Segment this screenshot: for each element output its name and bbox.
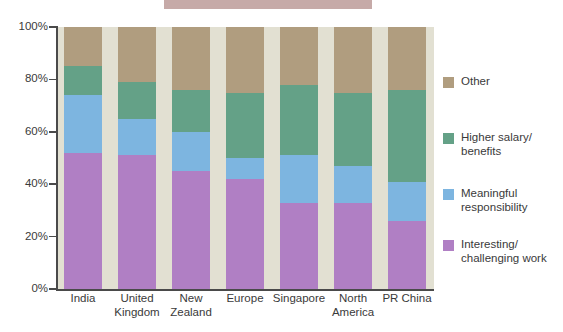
legend-swatch-icon: [443, 133, 454, 144]
bar-segment: [280, 155, 318, 202]
bar-segment: [64, 95, 102, 153]
x-axis-label-line: PR China: [371, 292, 443, 306]
y-axis-tick-label: 60%: [4, 126, 48, 138]
y-axis-tick: [49, 183, 56, 185]
bar-pr-china: [388, 27, 426, 289]
bar-europe: [226, 27, 264, 289]
bar-segment: [118, 119, 156, 156]
y-axis-tick-label-wrap: 100%: [0, 21, 48, 33]
y-axis-tick: [49, 236, 56, 238]
bar-north-america: [334, 27, 372, 289]
y-axis-tick-label-wrap: 0%: [0, 283, 48, 295]
bar-segment: [226, 158, 264, 179]
bar-india: [64, 27, 102, 289]
bar-segment: [64, 66, 102, 95]
legend-item[interactable]: Higher salary/ benefits: [443, 131, 532, 158]
bar-segment: [118, 27, 156, 82]
bar-new-zealand: [172, 27, 210, 289]
y-axis-tick: [49, 26, 56, 28]
x-axis-label-line: Zealand: [155, 306, 227, 320]
x-axis-label: PR China: [371, 292, 443, 306]
legend-item[interactable]: Interesting/ challenging work: [443, 238, 547, 265]
legend-label: Meaningful responsibility: [461, 187, 527, 214]
y-axis-tick-label-wrap: 60%: [0, 126, 48, 138]
bar-segment: [280, 203, 318, 289]
legend-swatch-icon: [443, 240, 454, 251]
x-axis-label-line: America: [317, 306, 389, 320]
bar-segment: [334, 203, 372, 289]
bar-segment: [334, 166, 372, 203]
bar-united-kingdom: [118, 27, 156, 289]
legend-label: Interesting/ challenging work: [461, 238, 547, 265]
bar-segment: [280, 85, 318, 156]
y-axis-tick-label-wrap: 40%: [0, 178, 48, 190]
bar-segment: [172, 171, 210, 289]
y-axis-tick-label-wrap: 80%: [0, 73, 48, 85]
bar-segment: [334, 93, 372, 166]
legend-swatch-icon: [443, 77, 454, 88]
y-axis-tick: [49, 79, 56, 81]
bar-segment: [280, 27, 318, 85]
stacked-bar-chart: 100%80%60%40%20%0% IndiaUnitedKingdomNew…: [0, 0, 563, 332]
y-axis-tick-label: 20%: [4, 231, 48, 243]
y-axis-tick-label: 80%: [4, 73, 48, 85]
bar-singapore: [280, 27, 318, 289]
y-axis-tick: [49, 131, 56, 133]
legend-label: Other: [461, 75, 490, 89]
bar-segment: [388, 182, 426, 221]
legend-label: Higher salary/ benefits: [461, 131, 532, 158]
bar-segment: [64, 153, 102, 289]
bar-segment: [118, 155, 156, 289]
bar-segment: [64, 27, 102, 66]
bar-segment: [388, 27, 426, 90]
y-axis-tick-label: 0%: [4, 283, 48, 295]
bar-segment: [226, 93, 264, 159]
bar-group: [56, 27, 434, 289]
bar-segment: [172, 90, 210, 132]
bar-segment: [226, 179, 264, 289]
bar-segment: [388, 221, 426, 289]
bar-segment: [118, 82, 156, 119]
y-axis-tick-label: 40%: [4, 178, 48, 190]
legend-item[interactable]: Meaningful responsibility: [443, 187, 527, 214]
x-axis-label-group: IndiaUnitedKingdomNewZealandEuropeSingap…: [56, 292, 434, 332]
bar-segment: [172, 132, 210, 171]
y-axis-tick-label-wrap: 20%: [0, 231, 48, 243]
bar-segment: [226, 27, 264, 93]
legend-swatch-icon: [443, 189, 454, 200]
x-axis-line: [56, 289, 434, 291]
y-axis-tick-label: 100%: [4, 21, 48, 33]
bar-segment: [388, 90, 426, 182]
bar-segment: [172, 27, 210, 90]
bar-segment: [334, 27, 372, 93]
y-axis-tick: [49, 288, 56, 290]
legend-item[interactable]: Other: [443, 75, 490, 89]
chart-legend: OtherHigher salary/ benefitsMeaningful r…: [443, 60, 563, 280]
